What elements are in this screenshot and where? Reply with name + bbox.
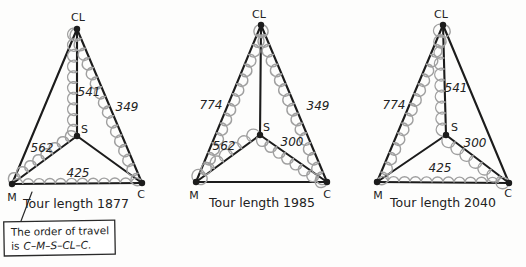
edge-weight-m-c: 425 — [429, 161, 452, 175]
vertex-dot-s — [443, 132, 449, 138]
vertex-label-c: C — [504, 187, 512, 200]
vertex-label-cl: CL — [252, 8, 267, 21]
edge-weight-s-c: 300 — [464, 136, 487, 150]
vertex-dot-m — [9, 181, 15, 187]
callout-box-group: The order of travel isC–M–S–CL–C. — [4, 220, 116, 256]
callout-text-line1: The order of travel — [10, 224, 109, 238]
vertex-label-m: M — [189, 189, 199, 202]
vertex-dot-cl — [74, 26, 80, 32]
vertex-dot-s — [74, 133, 80, 139]
tour-length-caption-3: Tour length 2040 — [389, 195, 496, 210]
edge-weight-m-cl: 774 — [383, 98, 406, 112]
tour-coil-cl-s — [68, 28, 77, 137]
edge-weight-s-c: 300 — [281, 135, 304, 149]
edge-weight-m-cl: 774 — [200, 98, 223, 112]
vertex-dot-cl — [258, 22, 264, 28]
edge-weight-m-s: 562 — [213, 139, 236, 153]
vertex-label-c: C — [323, 188, 331, 201]
edge-weight-cl-c: 349 — [116, 100, 139, 114]
tsp-tours-figure: CL S M C 541 349 562 425 Tour length 187… — [0, 0, 526, 267]
diagram-tour-1985: CL S M C 774 349 562 300 Tour length 198… — [189, 8, 331, 210]
figure-canvas: CL S M C 541 349 562 425 Tour length 187… — [0, 0, 526, 267]
tour-length-caption-1: Tour length 1877 — [22, 196, 129, 211]
vertex-label-cl: CL — [71, 11, 86, 24]
vertex-label-s: S — [81, 123, 88, 136]
diagram-tour-1877: CL S M C 541 349 562 425 Tour length 187… — [7, 11, 145, 211]
vertex-dot-c — [324, 179, 330, 185]
edge-weight-cl-s: 541 — [78, 85, 101, 99]
vertex-label-m: M — [373, 189, 383, 202]
tour-length-caption-2: Tour length 1985 — [208, 195, 315, 210]
diagram-tour-2040: CL S M C 774 541 300 425 Tour length 204… — [373, 8, 512, 210]
vertex-dot-cl — [440, 22, 446, 28]
callout-text-line2: isC–M–S–CL–C. — [11, 238, 92, 251]
vertex-dot-c — [139, 180, 145, 186]
edge-weight-m-c: 425 — [67, 166, 90, 180]
callout-line2-lead: is — [11, 240, 20, 252]
vertex-label-cl: CL — [434, 8, 449, 21]
callout-route-text: C–M–S–CL–C. — [23, 238, 91, 251]
vertex-label-m: M — [7, 191, 17, 204]
edge-weight-cl-c: 349 — [307, 99, 330, 113]
edge-weight-m-s: 562 — [31, 141, 54, 155]
vertex-dot-m — [374, 179, 380, 185]
vertex-label-s: S — [451, 121, 458, 134]
edge-weight-cl-s: 541 — [445, 81, 468, 95]
edge-cl-c — [443, 25, 509, 183]
vertex-dot-m — [193, 179, 199, 185]
vertex-label-s: S — [263, 121, 270, 134]
edge-cl-s — [260, 25, 261, 135]
vertex-label-c: C — [137, 188, 145, 201]
vertex-dot-c — [506, 180, 512, 186]
